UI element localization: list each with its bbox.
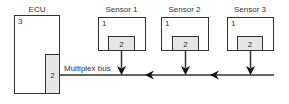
sensor-label: 1 <box>102 19 107 28</box>
sensor-title: Sensor 1 <box>105 5 138 14</box>
sensor-label: 1 <box>165 19 170 28</box>
sensor-title: Sensor 2 <box>168 5 201 14</box>
sensor-3-block: Sensor 3 1 2 <box>228 5 274 75</box>
sensor-title: Sensor 3 <box>234 5 267 14</box>
ecu-block: ECU 3 2 <box>15 5 60 94</box>
multiplex-bus-diagram: ECU 3 2 Multiplex bus Sensor 1 1 2 Senso… <box>0 0 289 104</box>
multiplex-bus: Multiplex bus <box>60 64 275 80</box>
sensor-port-label: 2 <box>248 40 253 49</box>
ecu-port-label: 2 <box>50 71 55 80</box>
ecu-label: 3 <box>18 17 23 26</box>
sensor-port-label: 2 <box>183 40 188 49</box>
ecu-title: ECU <box>29 5 46 14</box>
bus-label: Multiplex bus <box>64 64 111 73</box>
sensor-2-block: Sensor 2 1 2 <box>162 5 209 75</box>
sensor-port-label: 2 <box>119 40 124 49</box>
sensor-label: 1 <box>231 19 236 28</box>
